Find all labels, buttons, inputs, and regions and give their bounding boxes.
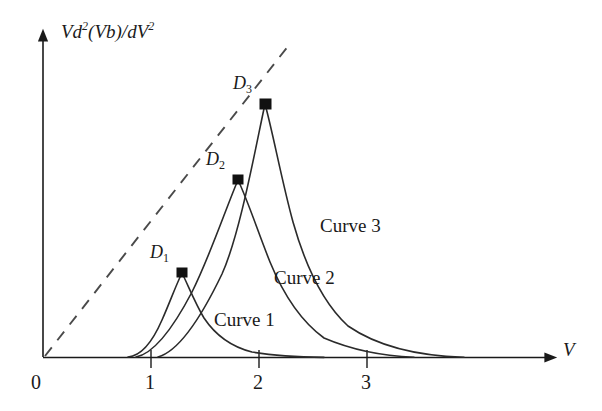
data-point-label-d3: D3 (233, 74, 252, 92)
curve-label-1: Curve 1 (214, 310, 275, 329)
x-axis-title: V (563, 340, 575, 359)
data-point-label-d1-sub: 1 (163, 251, 169, 265)
chart-plot-area (0, 0, 602, 411)
data-point-label-d3-text: D (233, 73, 246, 93)
data-point-d3[interactable] (260, 99, 272, 110)
chart-figure: Vd2(Vb)/dV2 V 0 1 2 3 D1 D2 D3 Curve 1 C… (0, 0, 602, 411)
curve-label-3: Curve 3 (320, 216, 381, 235)
y-axis-title-v: V (61, 21, 73, 42)
x-tick-label-1: 1 (145, 372, 155, 392)
y-axis-title-d: d (73, 21, 83, 42)
data-point-label-d2-sub: 2 (219, 158, 225, 172)
y-axis-title-d2: d (127, 21, 137, 42)
data-point-label-d1-text: D (150, 242, 163, 262)
x-tick-label-2: 2 (253, 372, 263, 392)
x-tick-label-0: 0 (31, 372, 41, 392)
y-axis-title-mid: (Vb)/ (88, 21, 127, 42)
data-point-d2[interactable] (233, 175, 244, 185)
y-axis-title-sup1: 2 (82, 19, 88, 33)
curve-label-2: Curve 2 (274, 268, 335, 287)
x-tick-label-3: 3 (361, 372, 371, 392)
data-point-d1[interactable] (177, 268, 188, 278)
y-axis-title-sup2: 2 (148, 19, 154, 33)
data-point-label-d1: D1 (150, 243, 169, 261)
data-point-label-d3-sub: 3 (246, 82, 252, 96)
y-axis-title: Vd2(Vb)/dV2 (61, 22, 154, 41)
y-axis-title-v2: V (137, 21, 149, 42)
data-point-label-d2-text: D (206, 149, 219, 169)
data-point-label-d2: D2 (206, 150, 225, 168)
